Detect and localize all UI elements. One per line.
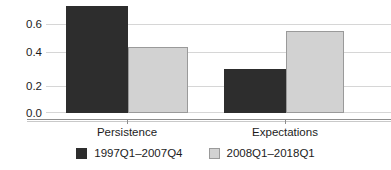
- y-axis-tick-label-0.6: 0.6: [8, 19, 42, 31]
- y-axis-tick-label-0.2: 0.2: [8, 81, 42, 93]
- legend-item-1997Q1-2007Q4: 1997Q1–2007Q4: [76, 148, 182, 160]
- y-axis-tick-label-0.4: 0.4: [8, 47, 42, 59]
- bar-expectations-2008Q1-2018Q1: [286, 31, 344, 113]
- x-axis-tick-mark-persistence: [127, 120, 128, 124]
- legend-swatch-icon-dark: [76, 148, 87, 159]
- legend-swatch-icon-light: [209, 148, 220, 159]
- legend-item-2008Q1-2018Q1: 2008Q1–2018Q1: [209, 148, 315, 160]
- bar-expectations-1997Q1-2007Q4: [224, 69, 286, 113]
- x-axis-line-shadow: [27, 121, 391, 122]
- bar-persistence-2008Q1-2018Q1: [128, 47, 188, 113]
- x-axis-tick-label-persistence: Persistence: [97, 126, 157, 138]
- y-axis-tick-label-0.0: 0.0: [8, 108, 42, 120]
- bar-persistence-1997Q1-2007Q4: [66, 6, 128, 113]
- legend-label-1997Q1-2007Q4: 1997Q1–2007Q4: [94, 148, 182, 160]
- grouped-bar-chart: 0.6 0.4 0.2 0.0 Persistence Expectations…: [0, 0, 391, 170]
- plot-area: [46, 0, 391, 113]
- chart-legend: 1997Q1–2007Q4 2008Q1–2018Q1: [0, 148, 391, 160]
- x-axis-line: [27, 119, 391, 120]
- x-axis-tick-label-expectations: Expectations: [252, 126, 318, 138]
- legend-label-2008Q1-2018Q1: 2008Q1–2018Q1: [227, 148, 315, 160]
- x-axis-tick-mark-expectations: [285, 120, 286, 124]
